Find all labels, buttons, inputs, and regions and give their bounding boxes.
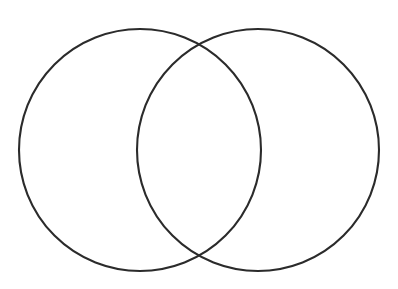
venn-diagram-svg bbox=[0, 0, 398, 289]
venn-diagram-canvas bbox=[0, 0, 398, 289]
